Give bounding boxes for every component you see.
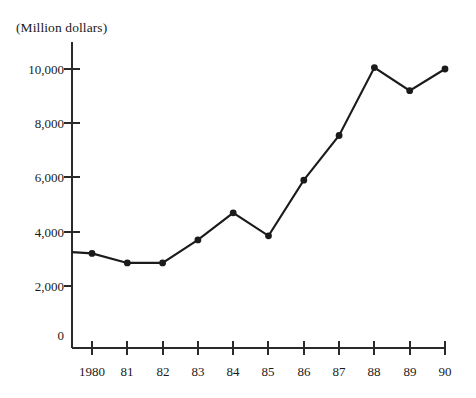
data-point-81 bbox=[124, 260, 131, 267]
y-axis-label-6000-wrap: 6,000 bbox=[6, 170, 64, 184]
x-axis-label-87: 87 bbox=[319, 364, 359, 380]
x-axis-label-83: 83 bbox=[178, 364, 218, 380]
y-axis-label-8000: 8,000 bbox=[6, 116, 64, 132]
data-point-85 bbox=[265, 232, 272, 239]
data-point-82 bbox=[159, 260, 166, 267]
y-axis-label-2000: 2,000 bbox=[6, 279, 64, 295]
x-axis-group bbox=[72, 341, 445, 355]
y-axis-label-8000-wrap: 8,000 bbox=[6, 116, 64, 130]
x-axis-label-1980: 1980 bbox=[72, 364, 112, 380]
data-point-89 bbox=[406, 87, 413, 94]
y-axis-label-10000: 10,000 bbox=[6, 62, 64, 78]
data-series-group bbox=[72, 64, 448, 266]
x-axis-label-81: 81 bbox=[107, 364, 147, 380]
data-point-88 bbox=[371, 64, 378, 71]
line-chart: (Million dollars) bbox=[0, 0, 476, 398]
y-axis-label-2000-wrap: 2,000 bbox=[6, 279, 64, 293]
y-axis-label-0: 0 bbox=[6, 328, 64, 344]
y-axis-label-0-wrap: 0 bbox=[6, 328, 64, 342]
x-axis-label-84: 84 bbox=[213, 364, 253, 380]
x-axis-label-86: 86 bbox=[284, 364, 324, 380]
data-point-84 bbox=[230, 209, 237, 216]
x-axis-label-82: 82 bbox=[143, 364, 183, 380]
chart-plot-area bbox=[0, 0, 476, 398]
x-axis-label-90: 90 bbox=[425, 364, 465, 380]
data-point-90 bbox=[442, 66, 449, 73]
data-point-87 bbox=[336, 132, 343, 139]
y-axis-group bbox=[64, 42, 80, 348]
y-axis-label-10000-wrap: 10,000 bbox=[6, 62, 64, 76]
data-point-83 bbox=[195, 237, 202, 244]
data-point-1980 bbox=[89, 250, 96, 257]
x-axis-label-85: 85 bbox=[248, 364, 288, 380]
y-axis-label-4000: 4,000 bbox=[6, 225, 64, 241]
y-axis-label-6000: 6,000 bbox=[6, 170, 64, 186]
data-point-86 bbox=[300, 177, 307, 184]
x-axis-label-89: 89 bbox=[390, 364, 430, 380]
y-axis-label-4000-wrap: 4,000 bbox=[6, 225, 64, 239]
x-axis-label-88: 88 bbox=[354, 364, 394, 380]
series-line-million-dollars bbox=[72, 68, 445, 263]
